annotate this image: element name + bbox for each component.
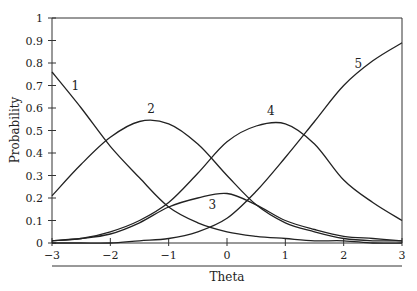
- x-tick-label: −1: [161, 249, 177, 262]
- x-tick-label: 1: [282, 249, 289, 262]
- y-tick-label: 0.8: [26, 57, 44, 70]
- curve-4: [52, 122, 402, 240]
- curve-label-4: 4: [267, 104, 275, 118]
- curve-label-1: 1: [72, 79, 80, 93]
- y-tick-label: 0.4: [26, 147, 44, 160]
- y-tick-label: 0: [36, 237, 43, 250]
- y-tick-label: 0.5: [26, 125, 44, 138]
- line-chart: 00.10.20.30.40.50.60.70.80.91−3−2−10123 …: [0, 0, 417, 291]
- curve-label-5: 5: [354, 57, 362, 71]
- y-axis-title: Probability: [8, 96, 22, 163]
- y-tick-label: 0.3: [26, 170, 44, 183]
- chart-container: 00.10.20.30.40.50.60.70.80.91−3−2−10123 …: [0, 0, 417, 291]
- curve-label-3: 3: [209, 198, 217, 212]
- x-tick-label: −3: [44, 249, 60, 262]
- y-tick-label: 0.1: [26, 215, 44, 228]
- y-tick-label: 1: [36, 12, 43, 25]
- x-axis-title: Theta: [210, 270, 245, 284]
- curves: [52, 43, 402, 243]
- curve-1: [52, 72, 402, 243]
- y-tick-label: 0.2: [26, 192, 44, 205]
- y-tick-label: 0.7: [26, 80, 44, 93]
- x-tick-label: 0: [224, 249, 231, 262]
- x-tick-label: 2: [340, 249, 347, 262]
- y-tick-label: 0.6: [26, 102, 44, 115]
- curve-5: [52, 43, 402, 243]
- x-tick-label: 3: [399, 249, 406, 262]
- y-tick-label: 0.9: [26, 35, 44, 48]
- x-tick-label: −2: [102, 249, 118, 262]
- axes: 00.10.20.30.40.50.60.70.80.91−3−2−10123: [26, 12, 406, 266]
- curve-label-2: 2: [147, 102, 155, 116]
